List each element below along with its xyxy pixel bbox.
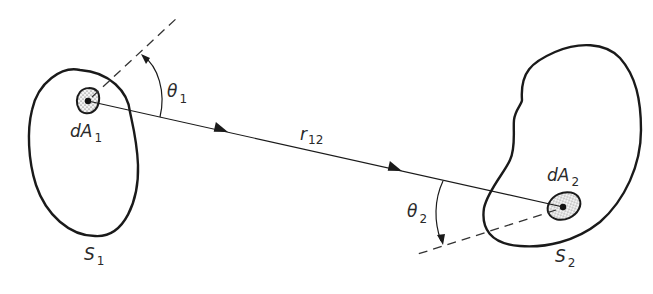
label-theta-2: θ2 xyxy=(407,201,427,226)
label-S1: S1 xyxy=(84,244,104,268)
theta-2-arrow-icon xyxy=(437,234,445,245)
r12-line xyxy=(88,101,563,207)
r12-arrow-2-icon xyxy=(388,161,404,174)
r12-arrow-1-icon xyxy=(214,122,230,135)
theta-2-arc xyxy=(436,181,443,241)
label-theta-1: θ1 xyxy=(167,81,187,106)
radiation-exchange-diagram: θ1 dA1 r12 θ2 dA2 S1 S2 xyxy=(0,0,653,294)
normal-1-dashed xyxy=(92,17,178,97)
theta-1-arc xyxy=(143,56,162,117)
label-dA2: dA2 xyxy=(547,165,579,189)
label-S2: S2 xyxy=(555,246,575,270)
theta-1-arrow-icon xyxy=(141,54,150,64)
label-r12: r12 xyxy=(300,124,323,147)
label-dA1: dA1 xyxy=(70,121,102,145)
